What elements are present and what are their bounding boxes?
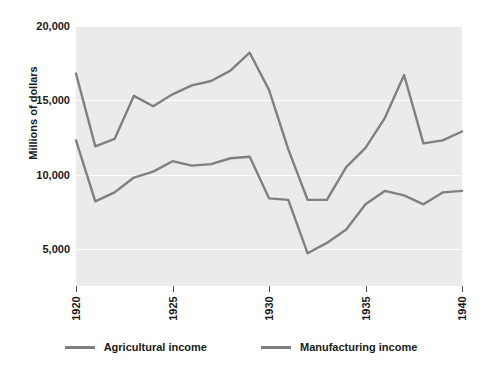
legend-item[interactable]: Manufacturing income bbox=[261, 341, 417, 353]
series-lines bbox=[76, 26, 462, 286]
legend-label: Agricultural income bbox=[104, 341, 207, 353]
y-axis-tick-label: 5,000 bbox=[8, 243, 70, 255]
x-axis-tick-label: 1930 bbox=[263, 289, 276, 329]
y-axis-tick-label: 15,000 bbox=[8, 94, 70, 106]
x-axis-tick-label: 1935 bbox=[359, 289, 372, 329]
line-chart: Millions of dollars 20,00015,00010,0005,… bbox=[0, 0, 482, 368]
y-axis-tick-label: 10,000 bbox=[8, 169, 70, 181]
x-axis-tick-label: 1920 bbox=[70, 289, 83, 329]
x-axis-tick-label: 1940 bbox=[456, 289, 469, 329]
y-axis-tick-labels: 20,00015,00010,0005,000 bbox=[0, 0, 70, 368]
series-line bbox=[76, 140, 462, 253]
x-axis-tick-label: 1925 bbox=[166, 289, 179, 329]
legend-line-swatch bbox=[65, 346, 95, 349]
legend-item[interactable]: Agricultural income bbox=[65, 341, 207, 353]
chart-legend: Agricultural incomeManufacturing income bbox=[0, 336, 482, 358]
y-axis-tick-label: 20,000 bbox=[8, 20, 70, 32]
legend-label: Manufacturing income bbox=[300, 341, 417, 353]
legend-line-swatch bbox=[261, 346, 291, 349]
